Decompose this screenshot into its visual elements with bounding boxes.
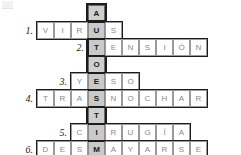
answer-cell[interactable]: S	[105, 22, 122, 39]
answer-cell[interactable]: Y	[122, 141, 139, 155]
answer-cell[interactable]: O	[122, 73, 139, 90]
row-number-1: 1.	[11, 22, 33, 39]
answer-cell[interactable]: E	[54, 141, 71, 155]
answer-cell[interactable]: Y	[71, 73, 88, 90]
keyword-cell[interactable]: O	[88, 56, 105, 73]
answer-cell[interactable]: H	[156, 90, 173, 107]
answer-cell[interactable]: R	[71, 22, 88, 39]
keyword-cell[interactable]: T	[88, 39, 105, 56]
answer-cell[interactable]: D	[37, 141, 54, 155]
row-number-6: 6.	[11, 141, 33, 155]
answer-cell[interactable]: I	[54, 22, 71, 39]
answer-cell[interactable]: S	[105, 73, 122, 90]
row-number-4: 4.	[11, 90, 33, 107]
keyword-cell[interactable]: T	[88, 107, 105, 124]
answer-cell[interactable]: C	[71, 124, 88, 141]
answer-cell[interactable]: V	[37, 22, 54, 39]
answer-cell[interactable]: Í	[156, 124, 173, 141]
answer-cell[interactable]: T	[37, 90, 54, 107]
answer-cell[interactable]: O	[122, 90, 139, 107]
row-number-3: 3.	[45, 73, 67, 90]
keyword-cell[interactable]: S	[88, 90, 105, 107]
keyword-cell[interactable]: E	[88, 73, 105, 90]
answer-cell[interactable]: I	[156, 39, 173, 56]
answer-cell[interactable]: A	[173, 90, 190, 107]
answer-cell[interactable]: N	[122, 39, 139, 56]
answer-cell[interactable]: A	[105, 141, 122, 155]
answer-cell[interactable]: G	[139, 124, 156, 141]
answer-cell[interactable]: N	[190, 39, 207, 56]
answer-cell[interactable]: R	[190, 90, 207, 107]
answer-cell[interactable]: U	[122, 124, 139, 141]
keyword-cell[interactable]: U	[88, 22, 105, 39]
crossword-puzzle: AUTOESTIMAVIRS1.ENSIÓN2.YSO3.TRANOCHAR4.…	[0, 0, 241, 155]
answer-cell[interactable]: N	[105, 90, 122, 107]
keyword-cell[interactable]: A	[88, 5, 105, 22]
answer-cell[interactable]: A	[139, 141, 156, 155]
answer-cell[interactable]: R	[156, 141, 173, 155]
row-number-5: 5.	[45, 124, 67, 141]
answer-cell[interactable]: R	[105, 124, 122, 141]
answer-cell[interactable]: S	[173, 141, 190, 155]
keyword-cell[interactable]: I	[88, 124, 105, 141]
answer-cell[interactable]: A	[71, 90, 88, 107]
page-corner-artifact	[2, 1, 13, 9]
answer-cell[interactable]: S	[71, 141, 88, 155]
row-number-2: 2.	[62, 39, 84, 56]
answer-cell[interactable]: C	[139, 90, 156, 107]
answer-cell[interactable]: Ó	[173, 39, 190, 56]
answer-cell[interactable]: A	[173, 124, 190, 141]
keyword-cell[interactable]: M	[88, 141, 105, 155]
answer-cell[interactable]: S	[139, 39, 156, 56]
answer-cell[interactable]: E	[190, 141, 207, 155]
answer-cell[interactable]: E	[105, 39, 122, 56]
answer-cell[interactable]: R	[54, 90, 71, 107]
